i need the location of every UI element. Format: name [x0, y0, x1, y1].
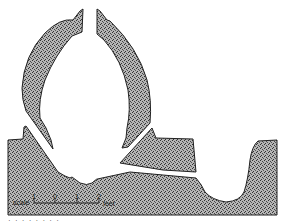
scale-tick-0: 0	[53, 193, 57, 201]
cross-section-diagram	[0, 0, 297, 223]
scale-tick-1: 1	[75, 193, 79, 201]
scale-tick-1-left: 1	[32, 193, 36, 201]
scale-label: scale	[13, 199, 29, 207]
scale-tick-2: 2	[97, 193, 101, 201]
figure-caption: · · · · · · · ·	[8, 216, 60, 223]
left-arch-stone	[22, 9, 83, 149]
scale-unit: feet	[103, 200, 115, 208]
right-arch-stone	[97, 9, 151, 148]
